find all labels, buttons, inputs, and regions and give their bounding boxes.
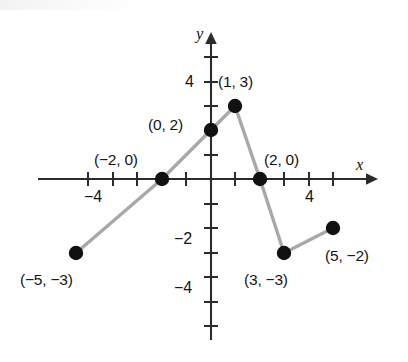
data-point-marker (253, 172, 267, 186)
y-axis-label: y (196, 26, 203, 43)
data-point-marker (204, 123, 218, 137)
data-point-marker (69, 246, 83, 260)
data-point-marker (277, 246, 291, 260)
x-tick-label-pos4: 4 (305, 189, 314, 205)
y-axis-group (205, 32, 217, 340)
point-label-neg2-0: (−2, 0) (94, 152, 138, 168)
point-label-neg5-neg3: (−5, −3) (20, 272, 73, 288)
point-label-1-3: (1, 3) (218, 74, 253, 90)
point-label-5-neg2: (5, −2) (325, 248, 369, 264)
data-point-marker (326, 221, 340, 235)
data-point-marker (228, 99, 242, 113)
data-point-marker (155, 172, 169, 186)
y-axis-arrowhead (205, 32, 217, 44)
x-tick-label-neg4: −4 (84, 189, 102, 205)
point-label-0-2: (0, 2) (148, 117, 183, 133)
y-tick-label-pos4: 4 (185, 74, 194, 90)
coordinate-plane-graphic (0, 0, 408, 362)
point-label-3-neg3: (3, −3) (244, 272, 288, 288)
point-label-2-0: (2, 0) (264, 152, 299, 168)
y-tick-label-neg4: −4 (174, 280, 192, 296)
figure-canvas: y x −4 4 4 −2 −4 (−5, −3) (−2, 0) (0, 2)… (0, 0, 408, 362)
x-axis-arrowhead (366, 173, 378, 185)
y-tick-label-neg2: −2 (174, 231, 192, 247)
x-axis-label: x (356, 157, 363, 174)
